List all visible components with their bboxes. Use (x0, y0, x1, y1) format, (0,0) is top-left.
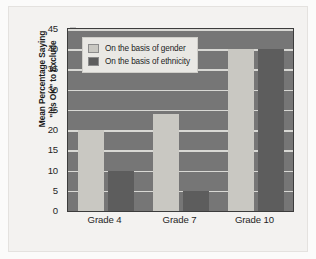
bar-chart: Mean Percentage Saying "It's OK" to Excl… (20, 14, 300, 246)
y-tick-label: 10 (28, 164, 58, 175)
y-axis-ticks: 454035302520151050 (28, 28, 58, 210)
legend-item-gender: On the basis of gender (88, 42, 190, 55)
y-tick-label: 15 (28, 144, 58, 155)
x-axis-labels: Grade 4Grade 7Grade 10 (67, 214, 292, 225)
x-tick-label: Grade 4 (67, 214, 142, 225)
y-tick-label: 20 (28, 124, 58, 135)
bar (183, 191, 209, 211)
bar (258, 49, 284, 211)
y-tick-label: 45 (28, 23, 58, 34)
legend-swatch-gender-icon (88, 44, 99, 53)
y-tick-label: 35 (28, 63, 58, 74)
bar (228, 49, 254, 211)
legend-item-ethnicity: On the basis of ethnicity (88, 55, 190, 68)
bar (153, 114, 179, 211)
x-tick-label: Grade 10 (217, 214, 292, 225)
bar-group (218, 29, 293, 211)
x-tick-label: Grade 7 (142, 214, 217, 225)
legend-swatch-ethnicity-icon (88, 57, 99, 66)
y-tick-label: 30 (28, 83, 58, 94)
chart-legend: On the basis of gender On the basis of e… (82, 37, 198, 73)
chart-page: Mean Percentage Saying "It's OK" to Excl… (0, 0, 316, 259)
y-tick-label: 40 (28, 43, 58, 54)
y-tick-label: 0 (28, 205, 58, 216)
y-tick-label: 25 (28, 103, 58, 114)
bar (78, 130, 104, 211)
legend-label-ethnicity: On the basis of ethnicity (105, 57, 190, 66)
y-tick-label: 5 (28, 184, 58, 195)
legend-label-gender: On the basis of gender (105, 44, 186, 53)
bar (108, 171, 134, 211)
